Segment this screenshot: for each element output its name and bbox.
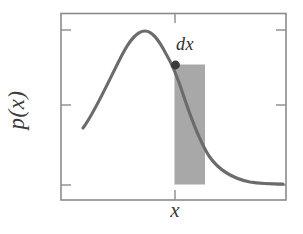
plot-canvas <box>0 0 303 234</box>
dx-annotation-label: dx <box>176 34 194 55</box>
curve-marker-dot <box>171 61 180 70</box>
y-axis-label: p(x) <box>4 80 30 140</box>
x-axis-label: x <box>154 198 196 223</box>
probability-density-figure: p(x) x dx <box>0 0 303 234</box>
